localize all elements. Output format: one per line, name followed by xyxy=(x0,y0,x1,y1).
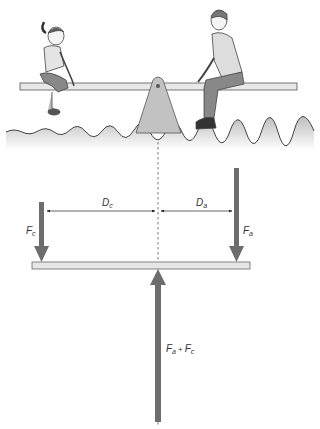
force-child-arrow xyxy=(34,202,49,262)
label-reaction-force: Fa+Fc xyxy=(166,343,195,355)
seesaw-diagram: Dc Da Fc Fa Fa+Fc xyxy=(0,0,320,429)
label-distance-adult: Da xyxy=(196,197,207,209)
force-adult-arrow xyxy=(229,168,244,262)
adult-figure xyxy=(196,10,244,129)
pivot-bolt-icon xyxy=(156,84,160,88)
label-force-child: Fc xyxy=(26,225,36,237)
child-figure xyxy=(40,22,74,115)
reaction-force-arrow xyxy=(150,269,166,422)
label-distance-child: Dc xyxy=(102,197,113,209)
label-force-adult: Fa xyxy=(243,225,253,237)
lever-beam xyxy=(32,262,250,269)
